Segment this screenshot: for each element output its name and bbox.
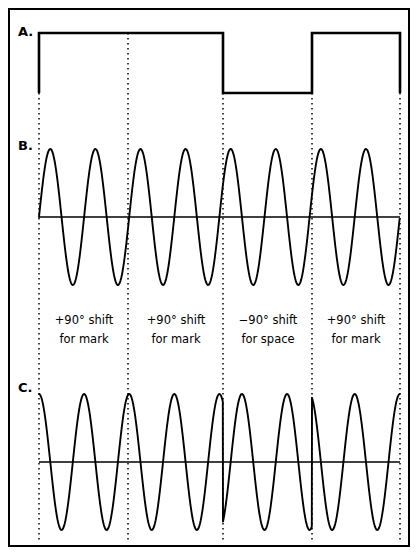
phase-annotation-0-line1: +90° shift <box>55 313 114 327</box>
phase-annotation-1-line2: for mark <box>151 332 200 346</box>
psk-modulation-figure: A. B. C. +90° shiftfor mark+90° shiftfor… <box>0 0 418 559</box>
figure-background <box>0 0 418 559</box>
trace-label-c: C. <box>18 380 32 395</box>
phase-annotation-1-line1: +90° shift <box>147 313 206 327</box>
phase-annotation-3-line1: +90° shift <box>327 313 386 327</box>
figure-canvas: A. B. C. +90° shiftfor mark+90° shiftfor… <box>0 0 418 559</box>
phase-annotation-2-line1: −90° shift <box>239 313 298 327</box>
phase-annotation-2-line2: for space <box>241 332 294 346</box>
phase-annotation-0-line2: for mark <box>59 332 108 346</box>
phase-annotation-3-line2: for mark <box>331 332 380 346</box>
trace-label-b: B. <box>18 138 33 153</box>
trace-label-a: A. <box>18 24 33 39</box>
